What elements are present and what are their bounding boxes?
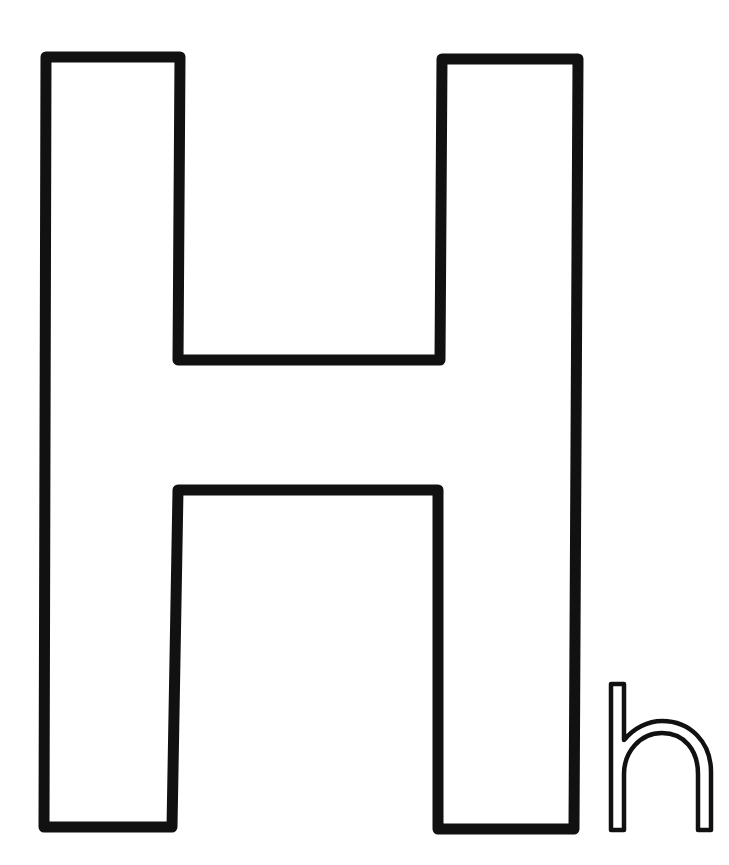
uppercase-h-outline xyxy=(44,57,578,829)
lowercase-h-outline xyxy=(611,684,711,830)
coloring-page: H h xyxy=(0,0,729,865)
